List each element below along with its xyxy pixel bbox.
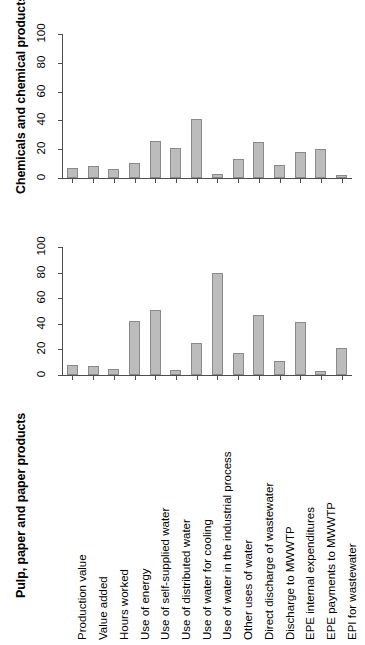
x-axis-tick: [114, 376, 115, 380]
x-axis-tick: [197, 179, 198, 183]
x-axis-category-label: EPE internal expenditures: [304, 507, 316, 640]
x-axis-category-label: Use of self-supplied water: [159, 508, 171, 640]
x-axis-category-label: Use of water for cooling: [201, 519, 213, 640]
x-axis-tick: [197, 376, 198, 380]
x-axis-category-label: Use of water in the industrial process: [221, 451, 233, 640]
y-tick-label: 40: [35, 106, 47, 132]
y-tick-label: 80: [35, 259, 47, 285]
x-axis-category-label: Use of distributed water: [180, 519, 192, 640]
y-tick-label: 0: [35, 361, 47, 387]
bar: [191, 343, 202, 375]
x-axis-tick: [93, 376, 94, 380]
bar: [336, 348, 347, 375]
x-axis-tick: [321, 179, 322, 183]
x-axis-tick: [238, 179, 239, 183]
bar: [233, 159, 244, 178]
bar: [253, 315, 264, 375]
bar: [212, 174, 223, 178]
x-axis-category-label: Other uses of water: [242, 540, 254, 640]
bar: [295, 152, 306, 178]
y-tick-label: 60: [35, 78, 47, 104]
x-axis-tick: [280, 179, 281, 183]
bar: [88, 166, 99, 178]
x-axis-tick: [280, 376, 281, 380]
x-axis-tick: [176, 179, 177, 183]
x-axis-tick: [72, 376, 73, 380]
panel-pulp-paper-and-paper-products: Pulp, paper and paper products 020406080…: [0, 215, 365, 390]
bar: [150, 141, 161, 178]
y-tick-label: 40: [35, 310, 47, 336]
bar: [170, 148, 181, 178]
x-axis-tick: [135, 179, 136, 183]
panel-chemicals-and-chemical-products: Chemicals and chemical products 02040608…: [0, 0, 365, 215]
bar: [233, 353, 244, 375]
bar: [253, 142, 264, 178]
bar: [212, 273, 223, 375]
y-tick-label: 100: [35, 20, 47, 46]
y-tick-label: 60: [35, 284, 47, 310]
bar: [129, 321, 140, 375]
bar: [274, 165, 285, 178]
x-axis-category-label: Value added: [97, 576, 109, 640]
bar: [274, 361, 285, 375]
y-tick-label: 20: [35, 335, 47, 361]
bar: [88, 366, 99, 375]
bar: [315, 371, 326, 375]
figure-two-panel-bar-charts: Chemicals and chemical products 02040608…: [0, 0, 365, 645]
x-axis-category-label: EPE payments to MWWTP: [325, 502, 337, 640]
bar: [129, 163, 140, 178]
x-axis-category-label: Direct discharge of wastewater: [263, 483, 275, 640]
x-axis-tick: [321, 376, 322, 380]
bar: [67, 168, 78, 178]
plot-area-chemicals: [62, 34, 352, 178]
x-axis-tick: [238, 376, 239, 380]
x-axis-category-label: Hours worked: [118, 569, 130, 640]
x-axis-tick: [114, 179, 115, 183]
plot-area-pulp: [62, 247, 352, 375]
y-tick-label: 0: [35, 164, 47, 190]
bar: [295, 322, 306, 375]
x-axis-tick: [217, 376, 218, 380]
x-axis-baseline: [62, 375, 352, 376]
x-axis-tick: [93, 179, 94, 183]
bar: [150, 310, 161, 375]
y-axis-title-chemicals: Chemicals and chemical products: [14, 0, 28, 194]
x-axis-category-label: Production value: [76, 554, 88, 640]
x-axis-category-label: EPI for wastewater: [346, 543, 358, 640]
x-axis-tick: [342, 179, 343, 183]
x-axis-tick: [217, 179, 218, 183]
x-axis-tick: [300, 376, 301, 380]
x-axis-baseline: [62, 178, 352, 179]
y-tick-label: 100: [35, 233, 47, 259]
x-axis-category-label: Use of energy: [139, 568, 151, 640]
bar: [108, 369, 119, 375]
x-axis-tick: [176, 376, 177, 380]
bar: [108, 169, 119, 178]
x-axis-tick: [155, 376, 156, 380]
x-axis-tick: [135, 376, 136, 380]
bar: [336, 175, 347, 178]
bar: [191, 119, 202, 178]
bar: [315, 149, 326, 178]
y-tick-label: 20: [35, 135, 47, 161]
x-axis-tick: [72, 179, 73, 183]
x-axis-category-labels: Production valueValue addedHours workedU…: [0, 390, 365, 645]
x-axis-tick: [300, 179, 301, 183]
x-axis-tick: [259, 179, 260, 183]
bar: [67, 365, 78, 375]
x-axis-tick: [259, 376, 260, 380]
x-axis-category-label: Discharge to MWWTP: [284, 526, 296, 640]
x-axis-tick: [342, 376, 343, 380]
y-tick-label: 80: [35, 49, 47, 75]
bar: [170, 370, 181, 375]
x-axis-tick: [155, 179, 156, 183]
